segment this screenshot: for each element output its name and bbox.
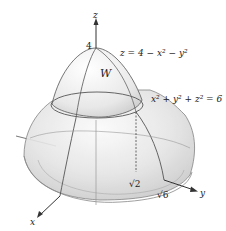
y-outer-tick-label: √6	[157, 190, 169, 200]
y-axis-arrow-icon	[190, 187, 198, 193]
region-diagram: z y x 4 √2 √6 W z = 4 − x² − y² x² + y² …	[0, 0, 226, 231]
paraboloid-surface	[52, 48, 142, 117]
region-label: W	[100, 67, 113, 80]
paraboloid-equation-label: z = 4 − x² − y²	[119, 48, 188, 58]
z-top-tick-label: 4	[86, 41, 92, 51]
sphere-equation-label: x² + y² + z² = 6	[151, 94, 223, 104]
z-axis-label: z	[92, 10, 98, 20]
y-inner-tick-label: √2	[129, 179, 140, 189]
y-axis-label: y	[199, 188, 206, 198]
x-axis-arrow-icon	[37, 211, 43, 218]
x-axis	[40, 196, 60, 215]
x-axis-label: x	[30, 217, 35, 227]
